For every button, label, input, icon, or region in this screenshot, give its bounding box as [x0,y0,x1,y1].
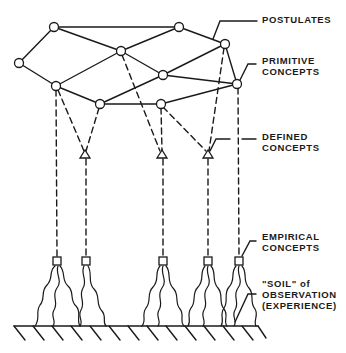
label-defined-line1: DEFINED [262,131,320,142]
label-primitive-concepts: PRIMITIVE CONCEPTS [262,55,320,77]
observation-roots [35,266,256,326]
ground-line [14,326,266,340]
square-S5 [235,257,243,265]
node-E [221,40,230,49]
label-defined-concepts: DEFINED CONCEPTS [262,131,320,153]
triangle-T1 [80,150,90,158]
square-S2 [82,257,90,265]
square-S3 [159,257,167,265]
square-S1 [53,257,61,265]
square-S4 [204,257,212,265]
label-primitive-line1: PRIMITIVE [262,55,320,66]
label-soil-line2: OBSERVATION [262,289,337,300]
empirical-concept-nodes [53,257,243,265]
defined-concept-nodes [80,150,213,158]
label-primitive-line2: CONCEPTS [262,66,320,77]
label-soil-line1: "SOIL" of [262,278,337,289]
node-G [52,82,61,91]
node-A [50,23,59,32]
node-F [159,71,168,80]
label-defined-line2: CONCEPTS [262,142,320,153]
node-B [175,23,184,32]
triangle-T3 [203,150,213,158]
postulate-edges [19,27,237,104]
node-I [157,100,166,109]
leader-lines [210,21,257,322]
node-D [117,47,126,56]
label-empirical-line1: EMPIRICAL [262,231,320,242]
label-postulates-text: POSTULATES [262,14,331,25]
label-empirical-line2: CONCEPTS [262,242,320,253]
triangle-T2 [157,150,167,158]
label-empirical-concepts: EMPIRICAL CONCEPTS [262,231,320,253]
node-H [96,100,105,109]
label-soil-line3: (EXPERIENCE) [262,300,337,311]
label-postulates: POSTULATES [262,14,331,25]
node-C [15,59,24,68]
primitive-concept-nodes [15,23,242,109]
node-J [233,80,242,89]
label-soil-of-observation: "SOIL" of OBSERVATION (EXPERIENCE) [262,278,337,311]
